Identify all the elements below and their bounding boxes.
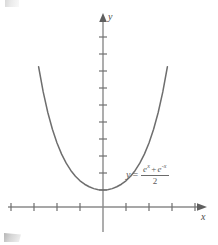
numerator-exponent-2: -x (162, 163, 167, 169)
equation-denominator: 2 (151, 176, 160, 186)
equation-equals-sign: = (132, 170, 138, 180)
y-axis-label: y (108, 11, 112, 22)
equation-numerator: ex+e-x (141, 163, 169, 175)
equation-lhs: y (126, 170, 130, 180)
figure-canvas: y x y = ex+e-x 2 (0, 0, 218, 245)
equation-fraction: ex+e-x 2 (141, 163, 169, 186)
graph-plot (0, 0, 218, 245)
equation-annotation: y = ex+e-x 2 (126, 163, 169, 186)
x-axis-label: x (201, 211, 205, 222)
